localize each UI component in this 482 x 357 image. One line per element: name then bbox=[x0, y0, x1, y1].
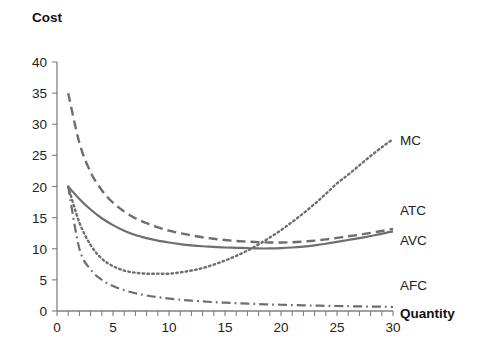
series-label-avc: AVC bbox=[400, 233, 427, 248]
x-tick-label: 25 bbox=[329, 320, 344, 335]
x-tick-label: 10 bbox=[161, 320, 176, 335]
y-axis-ticks bbox=[52, 62, 57, 311]
series-label-mc: MC bbox=[400, 133, 421, 148]
x-axis-ticks bbox=[57, 311, 393, 316]
x-tick-label: 0 bbox=[53, 320, 61, 335]
x-tick-label: 15 bbox=[217, 320, 232, 335]
curve-mc bbox=[68, 139, 393, 274]
y-axis-title: Cost bbox=[32, 10, 63, 25]
y-tick-label: 15 bbox=[32, 211, 47, 226]
series-label-atc: ATC bbox=[400, 203, 426, 218]
x-tick-label: 20 bbox=[273, 320, 288, 335]
y-tick-label: 40 bbox=[32, 55, 47, 70]
series-label-afc: AFC bbox=[400, 278, 427, 293]
chart-canvas: Cost 0510152025303540 051015202530 Quant… bbox=[0, 0, 482, 357]
y-axis-tick-labels: 0510152025303540 bbox=[32, 55, 47, 319]
cost-curves-chart: Cost 0510152025303540 051015202530 Quant… bbox=[0, 0, 482, 357]
y-tick-label: 30 bbox=[32, 117, 47, 132]
chart-series-group bbox=[68, 93, 393, 307]
y-tick-label: 25 bbox=[32, 148, 47, 163]
y-tick-label: 35 bbox=[32, 86, 47, 101]
x-tick-label: 30 bbox=[385, 320, 400, 335]
curve-atc bbox=[68, 93, 393, 242]
x-tick-label: 5 bbox=[109, 320, 117, 335]
y-tick-label: 10 bbox=[32, 242, 47, 257]
y-tick-label: 20 bbox=[32, 180, 47, 195]
y-tick-label: 0 bbox=[39, 304, 47, 319]
x-axis-tick-labels: 051015202530 bbox=[53, 320, 400, 335]
x-axis-title: Quantity bbox=[400, 306, 455, 321]
curve-avc bbox=[68, 187, 393, 249]
y-tick-label: 5 bbox=[39, 273, 47, 288]
